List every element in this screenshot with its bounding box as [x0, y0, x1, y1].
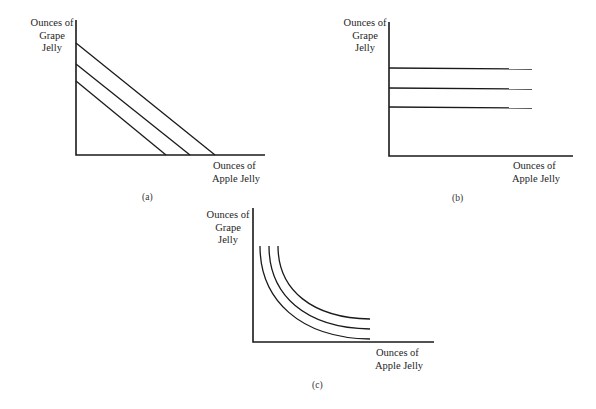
indifference-curve-a-1 — [76, 81, 166, 155]
indifference-curve-c-3 — [278, 246, 370, 319]
indifference-curve-b-3 — [389, 107, 532, 108]
indifference-curve-b-2 — [389, 88, 532, 89]
axes-c — [253, 208, 434, 342]
diagram-canvas — [0, 0, 596, 409]
indifference-curve-b-1 — [389, 68, 532, 69]
axes-a — [76, 20, 265, 155]
indifference-curve-c-1 — [260, 246, 370, 339]
indifference-curve-a-2 — [76, 64, 190, 155]
indifference-curve-c-2 — [269, 246, 370, 329]
